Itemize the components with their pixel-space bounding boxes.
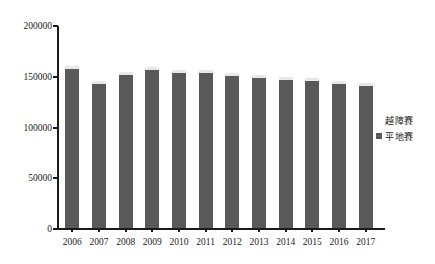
chart-legend: 越障賽平地賽 (376, 112, 435, 144)
x-axis-tick-mark (338, 228, 340, 232)
bar-stack[interactable] (225, 73, 239, 229)
y-axis-tick-mark (53, 127, 58, 129)
x-axis-tick-label: 2009 (139, 236, 166, 248)
bar-stack[interactable] (199, 70, 213, 229)
y-axis-tick-label: 50000 (0, 173, 52, 183)
y-axis-tick-label: 0 (0, 224, 52, 234)
bar-slot (65, 26, 79, 229)
bar-stack[interactable] (359, 83, 373, 229)
x-axis-tick-mark (258, 228, 260, 232)
x-axis-tick-mark (125, 228, 127, 232)
x-axis-line (57, 228, 385, 230)
bar-segment-primary (252, 78, 266, 229)
bar-slot (279, 26, 293, 229)
bar-segment-primary (92, 84, 106, 229)
x-axis-tick-label: 2013 (246, 236, 273, 248)
y-axis-tick-label: 150000 (0, 72, 52, 82)
bar-segment-primary (279, 80, 293, 229)
bar-segment-primary (332, 84, 346, 229)
bar-slot (92, 26, 106, 229)
x-axis-tick-label: 2008 (112, 236, 139, 248)
bar-stack[interactable] (252, 75, 266, 229)
x-axis-tick-label: 2012 (219, 236, 246, 248)
bar-slot (199, 26, 213, 229)
bar-segment-primary (145, 70, 159, 229)
bar-slot (252, 26, 266, 229)
bar-segment-primary (172, 73, 186, 229)
x-axis-tick-label: 2010 (166, 236, 193, 248)
x-axis-tick-mark (365, 228, 367, 232)
y-axis-tick-mark (53, 228, 58, 230)
y-axis-tick-mark (53, 76, 58, 78)
legend-entry[interactable]: 越障賽 (376, 112, 435, 128)
legend-entry[interactable]: 平地賽 (376, 128, 435, 144)
bar-segment-primary (65, 69, 79, 229)
x-axis-tick-label: 2006 (59, 236, 86, 248)
bar-segment-primary (359, 86, 373, 229)
bar-slot (305, 26, 319, 229)
bar-stack[interactable] (65, 66, 79, 229)
bar-slot (119, 26, 133, 229)
bar-segment-primary (225, 76, 239, 229)
bar-segment-primary (119, 75, 133, 229)
x-axis-tick-mark (285, 228, 287, 232)
bar-stack[interactable] (279, 77, 293, 229)
x-axis-tick-mark (311, 228, 313, 232)
bar-stack[interactable] (172, 70, 186, 229)
bar-slot (145, 26, 159, 229)
bar-segment-primary (199, 73, 213, 229)
bar-chart: 050000100000150000200000 越障賽平地賽 20062007… (0, 0, 435, 264)
x-axis-tick-label: 2014 (272, 236, 299, 248)
y-axis-tick-mark (53, 25, 58, 27)
bar-stack[interactable] (332, 81, 346, 229)
x-axis-tick-mark (178, 228, 180, 232)
y-axis-tick-label: 100000 (0, 123, 52, 133)
bar-stack[interactable] (92, 81, 106, 229)
bar-slot (359, 26, 373, 229)
x-axis-tick-mark (231, 228, 233, 232)
bar-segment-primary (305, 81, 319, 229)
x-axis-tick-label: 2015 (299, 236, 326, 248)
x-axis-tick-mark (98, 228, 100, 232)
x-axis-tick-label: 2011 (192, 236, 219, 248)
legend-swatch-icon (376, 133, 382, 139)
y-axis-label-group: 050000100000150000200000 (0, 0, 52, 264)
legend-entry-label: 越障賽 (385, 114, 414, 127)
y-axis-tick-mark (53, 177, 58, 179)
bar-slot (225, 26, 239, 229)
y-axis-tick-label: 200000 (0, 21, 52, 31)
bar-stack[interactable] (145, 67, 159, 229)
bar-stack[interactable] (305, 78, 319, 229)
x-axis-tick-mark (71, 228, 73, 232)
bar-stack[interactable] (119, 72, 133, 229)
legend-swatch-spacer (376, 117, 382, 123)
x-axis-tick-mark (151, 228, 153, 232)
x-axis-tick-label: 2016 (326, 236, 353, 248)
bar-slot (332, 26, 346, 229)
x-axis-tick-label: 2007 (86, 236, 113, 248)
plot-area (59, 26, 379, 229)
bar-slot (172, 26, 186, 229)
legend-entry-label: 平地賽 (385, 130, 414, 143)
x-axis-tick-label: 2017 (352, 236, 379, 248)
x-axis-tick-mark (205, 228, 207, 232)
